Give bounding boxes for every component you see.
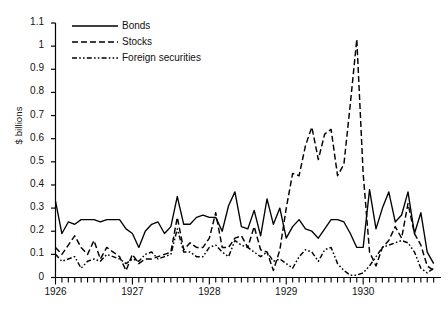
y-tick-label: 0.8 — [14, 85, 44, 96]
x-tick-label: 1928 — [189, 286, 229, 297]
y-tick-label: 0.1 — [14, 247, 44, 258]
chart-container: $ billions 00.10.20.30.40.50.60.70.80.91… — [0, 0, 448, 313]
legend-label-stocks: Stocks — [122, 36, 152, 47]
y-axis-ticks — [51, 23, 56, 278]
x-tick-label: 1930 — [343, 286, 383, 297]
y-tick-label: 1.1 — [14, 16, 44, 27]
y-tick-label: 0 — [14, 271, 44, 282]
x-axis-ticks — [56, 278, 434, 285]
y-tick-label: 0.2 — [14, 224, 44, 235]
x-tick-label: 1927 — [112, 286, 152, 297]
series-line-stocks — [56, 39, 434, 270]
axis-lines — [56, 23, 442, 278]
y-tick-label: 0.9 — [14, 62, 44, 73]
data-series-layer — [56, 39, 434, 275]
legend-label-bonds: Bonds — [122, 20, 150, 31]
legend-line-samples — [72, 26, 118, 58]
x-tick-label: 1929 — [266, 286, 306, 297]
y-tick-label: 0.7 — [14, 109, 44, 120]
series-line-bonds — [56, 190, 434, 264]
x-tick-label: 1926 — [36, 286, 76, 297]
y-tick-label: 0.5 — [14, 155, 44, 166]
y-tick-label: 0.3 — [14, 201, 44, 212]
y-tick-label: 1 — [14, 39, 44, 50]
y-tick-label: 0.4 — [14, 178, 44, 189]
y-tick-label: 0.6 — [14, 132, 44, 143]
legend-label-foreign-securities: Foreign securities — [122, 52, 201, 63]
chart-plot-area — [0, 0, 448, 313]
